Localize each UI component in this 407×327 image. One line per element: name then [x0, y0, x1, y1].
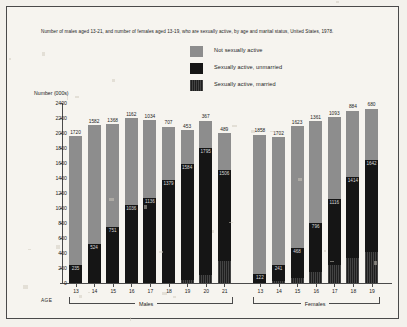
bar-value-active: 524 — [82, 245, 106, 250]
paper-speckle — [79, 295, 82, 298]
bar-males-age-14[interactable]: 5241582 — [88, 125, 101, 283]
segment-active-unmarried — [328, 199, 341, 265]
bar-females-age-19[interactable]: 1642680 — [365, 109, 378, 283]
bar-value-active: 751 — [101, 228, 125, 233]
bar-value-active: 796 — [304, 224, 328, 229]
segment-active-unmarried — [106, 227, 119, 283]
x-axis-title: AGE — [41, 298, 52, 303]
paper-speckle — [75, 96, 79, 98]
x-tick-mark — [187, 284, 188, 287]
bar-females-age-17[interactable]: 11161093 — [328, 117, 341, 283]
segment-not-active — [88, 125, 101, 244]
paper-speckle — [42, 52, 45, 55]
bar-males-age-13[interactable]: 2351720 — [69, 136, 82, 283]
segment-not-active — [309, 121, 322, 223]
segment-active-unmarried — [143, 198, 156, 283]
bar-value-active: 241 — [267, 266, 291, 271]
paper-speckle — [23, 285, 28, 289]
figure-canvas: Number of males aged 13-21, and number o… — [0, 0, 407, 327]
bar-value-not-active: 1093 — [322, 111, 346, 116]
group-label-males: Males — [135, 301, 157, 307]
paper-speckle — [232, 125, 237, 127]
paper-speckle — [144, 205, 146, 209]
paper-speckle — [162, 292, 167, 295]
group-bracket-males: Males — [69, 297, 233, 304]
segment-not-active — [106, 124, 119, 227]
paper-speckle — [9, 58, 11, 60]
segment-active-married — [291, 278, 304, 283]
bar-females-age-14[interactable]: 2411702 — [272, 137, 285, 283]
bar-value-not-active: 1623 — [285, 120, 309, 125]
segment-not-active — [69, 136, 82, 265]
segment-active-unmarried — [365, 160, 378, 252]
chart-frame: Number of males aged 13-21, and number o… — [6, 6, 399, 319]
segment-not-active — [199, 121, 212, 149]
group-bracket-females: Females — [253, 297, 380, 304]
y-tick-mark — [60, 283, 63, 284]
bar-value-active: 1642 — [360, 161, 384, 166]
segment-active-married — [218, 261, 231, 284]
legend-label-active-unmarried: Sexually active, unmarried — [214, 64, 282, 70]
bar-value-active: 1795 — [194, 149, 218, 154]
bar-value-active: 1116 — [322, 200, 346, 205]
bar-males-age-21[interactable]: 1506489 — [218, 133, 231, 283]
paper-speckle — [159, 251, 163, 253]
x-tick-mark — [131, 284, 132, 287]
y-axis-label: Number (000s) — [34, 90, 69, 96]
paper-speckle — [212, 230, 214, 232]
bar-value-active: 468 — [285, 249, 309, 254]
bar-value-not-active: 1368 — [101, 118, 125, 123]
plot-area: 2351720524158275113681036116211361034137… — [63, 103, 391, 283]
bar-males-age-19[interactable]: 1584453 — [181, 130, 194, 283]
bar-value-not-active: 1720 — [64, 130, 88, 135]
segment-active-unmarried — [199, 148, 212, 274]
segment-not-active — [365, 109, 378, 160]
paper-speckle — [229, 222, 233, 223]
segment-active-married — [272, 281, 285, 283]
segment-active-unmarried — [162, 180, 175, 283]
bar-males-age-20[interactable]: 1795367 — [199, 121, 212, 283]
x-tick-mark — [206, 284, 207, 287]
legend-swatch-active-unmarried-icon — [190, 63, 203, 74]
segment-not-active — [162, 127, 175, 180]
bar-females-age-18[interactable]: 1414884 — [346, 111, 359, 283]
paper-speckle — [324, 250, 326, 252]
group-label-females: Females — [301, 301, 330, 307]
paper-speckle — [251, 130, 255, 133]
bar-value-active: 122 — [248, 275, 272, 280]
x-tick-label-females-19: 19 — [361, 288, 383, 294]
x-axis-line — [62, 283, 392, 284]
bar-females-age-15[interactable]: 4681623 — [291, 126, 304, 283]
segment-active-married — [309, 272, 322, 283]
bar-value-not-active: 453 — [175, 124, 199, 129]
x-tick-mark — [260, 284, 261, 287]
bar-males-age-18[interactable]: 1379707 — [162, 127, 175, 283]
paper-speckle — [28, 249, 31, 250]
x-tick-mark — [150, 284, 151, 287]
segment-active-unmarried — [346, 177, 359, 258]
bar-males-age-15[interactable]: 7511368 — [106, 124, 119, 283]
segment-not-active — [272, 137, 285, 265]
x-tick-mark — [372, 284, 373, 287]
paper-speckle — [374, 261, 376, 265]
segment-not-active — [125, 118, 138, 205]
bar-value-active: 1584 — [175, 165, 199, 170]
legend-label-not-active: Not sexually active — [214, 47, 263, 53]
bar-value-active: 1379 — [157, 181, 181, 186]
bar-females-age-13[interactable]: 1221858 — [253, 135, 266, 284]
segment-active-unmarried — [181, 164, 194, 280]
segment-active-married — [181, 280, 194, 283]
bar-value-active: 235 — [64, 266, 88, 271]
bar-males-age-16[interactable]: 10361162 — [125, 118, 138, 283]
paper-speckle — [270, 131, 276, 132]
x-tick-mark — [334, 284, 335, 287]
x-tick-mark — [224, 284, 225, 287]
paper-speckle — [109, 198, 114, 201]
bar-value-active: 1036 — [119, 206, 143, 211]
paper-speckle — [330, 261, 334, 263]
segment-active-unmarried — [309, 223, 322, 271]
bar-males-age-17[interactable]: 11361034 — [143, 120, 156, 283]
paper-speckle — [88, 292, 90, 294]
x-tick-mark — [94, 284, 95, 287]
bar-females-age-16[interactable]: 7961361 — [309, 121, 322, 283]
